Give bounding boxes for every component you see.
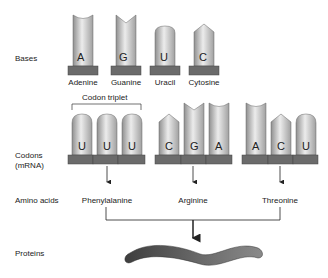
row-label-proteins: Proteins — [15, 249, 44, 259]
amino-acid-phenylalanine: Phenylalanine — [77, 196, 137, 205]
codon-letter: U — [302, 140, 310, 152]
row-label-codons: Codons — [15, 151, 43, 161]
protein-shape — [125, 245, 263, 265]
amino-acid-arginine: Arginine — [163, 196, 223, 205]
base-name-cytosine: Cytosine — [179, 78, 229, 87]
row-label-amino-acids: Amino acids — [15, 196, 59, 206]
amino-acid-bracket — [106, 207, 280, 220]
base-letter-g: G — [119, 51, 128, 63]
codon-group-3 — [242, 103, 318, 164]
codon-letter: U — [78, 140, 86, 152]
codon-letter: G — [190, 140, 199, 152]
base-adenine — [68, 15, 98, 75]
row-label-bases: Bases — [15, 54, 37, 64]
codon-letter: U — [128, 140, 136, 152]
base-cytosine — [189, 24, 219, 75]
codon-letter: A — [215, 140, 222, 152]
diagram-graphics — [0, 0, 328, 278]
row-label-mrna: (mRNA) — [15, 161, 44, 171]
amino-acid-threonine: Threonine — [250, 196, 310, 205]
codon-group-2 — [155, 103, 232, 164]
codon-triplet-label: Codon triplet — [82, 93, 127, 102]
base-letter-c: C — [199, 51, 207, 63]
codon-triplet-bracket — [72, 104, 141, 110]
codon-letter: C — [165, 140, 173, 152]
base-letter-a: A — [77, 51, 84, 63]
codon-letter: C — [277, 140, 285, 152]
base-letter-u: U — [160, 51, 168, 63]
codon-letter: A — [252, 140, 259, 152]
codon-letter: U — [103, 140, 111, 152]
base-guanine — [111, 15, 141, 75]
codon-group-1 — [68, 114, 145, 164]
